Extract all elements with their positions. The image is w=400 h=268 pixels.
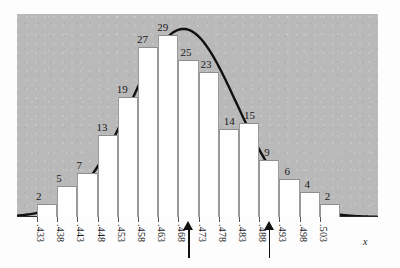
x-axis-tick-label: .498 bbox=[298, 224, 309, 242]
histogram-bar bbox=[199, 72, 219, 217]
histogram-figure: .433.438.443.448.453.458.463.468.473.478… bbox=[0, 0, 400, 268]
x-axis-tick-label: .448 bbox=[96, 224, 107, 242]
bar-value-label: 25 bbox=[180, 47, 191, 58]
bar-value-label: 7 bbox=[76, 160, 82, 171]
bar-value-label: 5 bbox=[56, 173, 62, 184]
x-axis-tick-label: .438 bbox=[55, 224, 66, 242]
x-axis-tick bbox=[199, 217, 200, 222]
bar-value-label: 9 bbox=[264, 147, 270, 158]
x-axis-tick bbox=[320, 217, 321, 222]
x-axis-title: x bbox=[363, 236, 367, 247]
histogram-bar bbox=[158, 35, 178, 217]
bar-value-label: 14 bbox=[224, 116, 235, 127]
x-axis-tick bbox=[77, 217, 78, 222]
histogram-bar bbox=[320, 204, 340, 217]
x-axis-tick-label: .503 bbox=[318, 224, 329, 242]
histogram-bar bbox=[118, 97, 138, 217]
x-axis-tick bbox=[37, 217, 38, 222]
histogram-bar bbox=[37, 204, 57, 217]
x-axis-tick bbox=[98, 217, 99, 222]
bar-value-label: 2 bbox=[36, 191, 42, 202]
bar-value-label: 19 bbox=[117, 84, 128, 95]
histogram-bar bbox=[178, 60, 198, 217]
histogram-bar bbox=[98, 135, 118, 217]
x-axis-tick-label: .443 bbox=[75, 224, 86, 242]
histogram-bar bbox=[239, 123, 259, 217]
x-axis-tick-label: .463 bbox=[156, 224, 167, 242]
x-axis-tick bbox=[158, 217, 159, 222]
x-axis-tick bbox=[259, 217, 260, 222]
x-axis-tick-label: .458 bbox=[136, 224, 147, 242]
x-axis-tick bbox=[57, 217, 58, 222]
x-axis-tick bbox=[239, 217, 240, 222]
bar-value-label: 6 bbox=[284, 166, 290, 177]
bar-value-label: 23 bbox=[201, 59, 212, 70]
histogram-bar bbox=[219, 129, 239, 217]
x-axis-tick bbox=[118, 217, 119, 222]
x-axis-tick-label: .493 bbox=[277, 224, 288, 242]
x-axis-tick bbox=[219, 217, 220, 222]
histogram-bar bbox=[300, 192, 320, 217]
histogram-bar bbox=[77, 173, 97, 217]
histogram-bar bbox=[138, 47, 158, 217]
arrow-stem bbox=[188, 228, 190, 258]
x-axis-tick-label: .478 bbox=[217, 224, 228, 242]
x-axis-tick-label: .433 bbox=[35, 224, 46, 242]
bar-value-label: 2 bbox=[325, 191, 331, 202]
bar-value-label: 29 bbox=[157, 22, 168, 33]
histogram-bar bbox=[57, 186, 77, 217]
bar-value-label: 27 bbox=[137, 34, 148, 45]
x-axis-tick-label: .473 bbox=[197, 224, 208, 242]
x-axis-tick-label: .483 bbox=[237, 224, 248, 242]
x-axis-tick-label: .453 bbox=[116, 224, 127, 242]
bar-value-label: 13 bbox=[97, 122, 108, 133]
bar-value-label: 15 bbox=[244, 110, 255, 121]
histogram-bar bbox=[259, 160, 279, 217]
bar-value-label: 4 bbox=[305, 179, 311, 190]
histogram-bar bbox=[279, 179, 299, 217]
x-axis-tick bbox=[178, 217, 179, 222]
x-axis-tick bbox=[300, 217, 301, 222]
x-axis-tick bbox=[279, 217, 280, 222]
x-axis-tick bbox=[138, 217, 139, 222]
arrow-stem bbox=[269, 228, 271, 258]
